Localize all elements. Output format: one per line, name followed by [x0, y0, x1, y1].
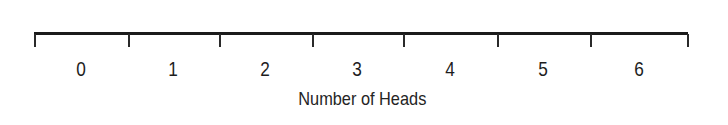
x-axis-tick-2: [219, 34, 221, 47]
x-axis-tick-0: [34, 34, 36, 47]
x-axis-tick-6: [590, 34, 592, 47]
x-axis-tick-label-5: 5: [527, 57, 560, 81]
x-axis-tick-label-0: 0: [65, 57, 98, 81]
x-axis-tick-1: [128, 34, 130, 47]
x-axis-tick-label-6: 6: [623, 57, 656, 81]
x-axis-tick-3: [312, 34, 314, 47]
x-axis-tick-label-1: 1: [157, 57, 190, 81]
x-axis-title: Number of Heads: [51, 88, 677, 110]
x-axis-tick-label-2: 2: [249, 57, 282, 81]
x-axis-tick-7: [687, 34, 689, 47]
x-axis-tick-5: [497, 34, 499, 47]
x-axis-tick-label-4: 4: [434, 57, 467, 81]
x-axis-title-text: Number of Heads: [298, 88, 426, 110]
x-axis-tick-4: [403, 34, 405, 47]
x-axis-tick-label-3: 3: [341, 57, 374, 81]
histogram-axis-figure: 0 1 2 3 4 5 6 Number of Heads: [0, 0, 728, 125]
